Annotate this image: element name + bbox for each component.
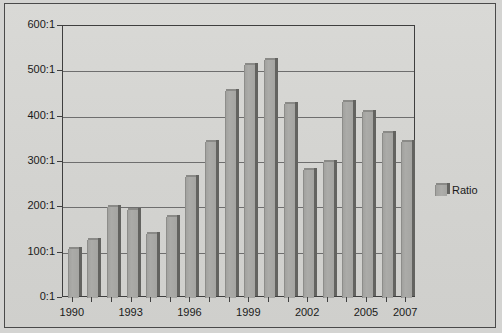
y-tick-0 bbox=[57, 297, 62, 298]
bar-top-face bbox=[402, 140, 412, 142]
bar-1992 bbox=[107, 207, 118, 298]
x-tick-2001 bbox=[288, 297, 289, 302]
bar-top-face bbox=[147, 232, 157, 234]
bar-top-face bbox=[167, 215, 177, 217]
x-axis-tick-label: 1999 bbox=[236, 306, 260, 318]
x-tick-2000 bbox=[268, 297, 269, 302]
y-axis-tick-label: 200:1 bbox=[9, 199, 55, 211]
x-tick-1997 bbox=[209, 297, 210, 302]
bar-side-face bbox=[98, 238, 101, 296]
bar-top-face bbox=[285, 102, 295, 104]
x-tick-1992 bbox=[111, 297, 112, 302]
bar-1995 bbox=[166, 217, 177, 298]
x-tick-1998 bbox=[229, 297, 230, 302]
bar-top-face bbox=[304, 168, 314, 170]
x-axis-tick-label: 2002 bbox=[295, 306, 319, 318]
bar-top-face bbox=[88, 238, 98, 240]
bar-top-face bbox=[265, 58, 275, 60]
figure-frame: 600:1500:1400:1300:1200:1100:10:1 199019… bbox=[4, 3, 496, 328]
bar-side-face bbox=[216, 140, 219, 296]
bar-side-face bbox=[79, 247, 82, 296]
bar-side-face bbox=[393, 131, 396, 296]
bar-top-face bbox=[363, 110, 373, 112]
x-axis-tick-label: 1990 bbox=[60, 306, 84, 318]
bar-1993 bbox=[127, 210, 138, 298]
gridline-500 bbox=[63, 71, 414, 72]
bar-2004 bbox=[342, 102, 353, 298]
bar-side-face bbox=[138, 208, 141, 296]
bar-top-face bbox=[226, 89, 236, 91]
bar-side-face bbox=[412, 140, 415, 296]
bar-top-face bbox=[128, 208, 138, 210]
legend-swatch-ratio bbox=[435, 185, 447, 196]
bar-2006 bbox=[382, 133, 393, 298]
bar-top-face bbox=[245, 63, 255, 65]
bar-1991 bbox=[87, 240, 98, 298]
y-axis-tick-label: 100:1 bbox=[9, 245, 55, 257]
bar-top-face bbox=[324, 160, 334, 162]
plot-area bbox=[62, 25, 415, 297]
bar-side-face bbox=[295, 102, 298, 296]
y-axis-tick-label: 600:1 bbox=[9, 18, 55, 30]
bar-side-face bbox=[255, 63, 258, 296]
bar-2001 bbox=[284, 104, 295, 298]
bar-1999 bbox=[244, 65, 255, 298]
x-tick-1995 bbox=[170, 297, 171, 302]
x-tick-2003 bbox=[327, 297, 328, 302]
x-axis-tick-label: 2007 bbox=[393, 306, 417, 318]
x-tick-2004 bbox=[346, 297, 347, 302]
x-axis-tick-label: 1996 bbox=[177, 306, 201, 318]
x-tick-1994 bbox=[150, 297, 151, 302]
bar-side-face bbox=[236, 89, 239, 296]
bar-side-face bbox=[196, 175, 199, 296]
chart-panel: 600:1500:1400:1300:1200:1100:10:1 199019… bbox=[5, 4, 495, 327]
bar-side-face bbox=[353, 100, 356, 296]
bar-top-face bbox=[69, 247, 79, 249]
x-axis-tick-label: 1993 bbox=[118, 306, 142, 318]
legend-label-ratio: Ratio bbox=[452, 184, 478, 196]
y-axis-tick-label: 300:1 bbox=[9, 154, 55, 166]
bar-top-face bbox=[108, 205, 118, 207]
bar-1997 bbox=[205, 142, 216, 298]
bar-top-face bbox=[383, 131, 393, 133]
bar-2000 bbox=[264, 60, 275, 298]
bar-1996 bbox=[185, 177, 196, 298]
bar-side-face bbox=[118, 205, 121, 296]
chart-legend: Ratio bbox=[435, 184, 478, 196]
bar-side-face bbox=[177, 215, 180, 296]
bar-side-face bbox=[334, 160, 337, 296]
bar-top-face bbox=[186, 175, 196, 177]
bar-side-face bbox=[275, 58, 278, 296]
x-tick-1993 bbox=[131, 297, 132, 302]
y-axis-tick-label: 400:1 bbox=[9, 109, 55, 121]
bar-1994 bbox=[146, 234, 157, 298]
bar-1998 bbox=[225, 91, 236, 298]
bar-2003 bbox=[323, 162, 334, 298]
bar-side-face bbox=[157, 232, 160, 296]
legend-swatch-side bbox=[447, 183, 450, 194]
x-tick-1991 bbox=[91, 297, 92, 302]
bar-2002 bbox=[303, 170, 314, 298]
y-axis-tick-label: 0:1 bbox=[9, 290, 55, 302]
bar-side-face bbox=[314, 168, 317, 296]
x-tick-1996 bbox=[189, 297, 190, 302]
x-tick-2006 bbox=[386, 297, 387, 302]
bar-2007 bbox=[401, 142, 412, 298]
x-tick-1999 bbox=[248, 297, 249, 302]
x-tick-2007 bbox=[405, 297, 406, 302]
x-tick-2002 bbox=[307, 297, 308, 302]
bar-1990 bbox=[68, 249, 79, 298]
legend-swatch-top bbox=[436, 183, 447, 185]
chart-screenshot: 600:1500:1400:1300:1200:1100:10:1 199019… bbox=[0, 0, 502, 333]
bar-side-face bbox=[373, 110, 376, 296]
x-tick-2005 bbox=[366, 297, 367, 302]
bar-2005 bbox=[362, 112, 373, 298]
bar-top-face bbox=[343, 100, 353, 102]
bar-top-face bbox=[206, 140, 216, 142]
x-axis-tick-label: 2005 bbox=[354, 306, 378, 318]
y-axis-tick-label: 500:1 bbox=[9, 63, 55, 75]
x-tick-1990 bbox=[72, 297, 73, 302]
